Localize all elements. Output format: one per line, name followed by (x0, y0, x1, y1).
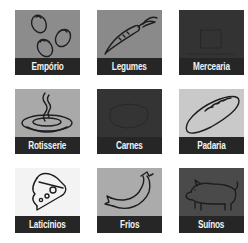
category-label: Suínos (179, 216, 244, 233)
category-tile-rotisserie[interactable]: Rotisserie (15, 89, 80, 154)
category-grid: Empório Legumes Mercearia (15, 10, 244, 233)
category-tile-legumes[interactable]: Legumes (97, 10, 162, 75)
category-label: Laticínios (15, 216, 80, 233)
category-label: Empório (15, 58, 80, 75)
category-label: Legumes (97, 58, 162, 75)
olives-icon (15, 10, 80, 58)
category-tile-frios[interactable]: Frios (97, 168, 162, 233)
grocery-icon (179, 10, 244, 58)
category-label: Rotisserie (15, 137, 80, 154)
category-label: Padaria (179, 137, 244, 154)
category-tile-laticinios[interactable]: Laticínios (15, 168, 80, 233)
cheese-icon (15, 168, 80, 216)
category-tile-suinos[interactable]: Suínos (179, 168, 244, 233)
category-label: Mercearia (179, 58, 244, 75)
category-label: Carnes (97, 137, 162, 154)
category-tile-padaria[interactable]: Padaria (179, 89, 244, 154)
category-tile-mercearia[interactable]: Mercearia (179, 10, 244, 75)
category-label: Frios (97, 216, 162, 233)
meat-icon (97, 89, 162, 137)
hot-dish-icon (15, 89, 80, 137)
carrot-icon (97, 10, 162, 58)
category-tile-carnes[interactable]: Carnes (97, 89, 162, 154)
category-tile-emporio[interactable]: Empório (15, 10, 80, 75)
bread-icon (179, 89, 244, 137)
pig-icon (179, 168, 244, 216)
sausage-icon (97, 168, 162, 216)
